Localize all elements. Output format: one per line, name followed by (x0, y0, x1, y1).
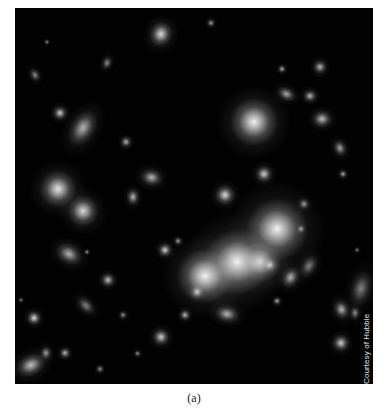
galaxy (176, 306, 194, 324)
figure-caption: (a) (0, 391, 388, 406)
galaxy (49, 102, 71, 124)
galaxy (23, 61, 48, 88)
galaxy (353, 246, 362, 255)
galaxy (123, 184, 143, 210)
galaxy (328, 330, 354, 356)
galaxy (275, 62, 288, 75)
galaxy (97, 269, 119, 291)
galaxy (270, 294, 283, 307)
galaxy (132, 348, 143, 359)
galaxy (116, 308, 129, 321)
galaxy (83, 248, 92, 257)
galaxy (59, 187, 107, 235)
galaxy (210, 180, 241, 211)
galaxy (17, 296, 26, 305)
photo-credit: Courtesy of Hubble (362, 314, 371, 384)
galaxy (204, 16, 217, 29)
galaxy (66, 286, 107, 327)
galaxy (93, 362, 106, 375)
galaxy (309, 56, 331, 78)
galaxy (117, 133, 135, 151)
galaxy (299, 86, 321, 106)
galaxy (326, 132, 354, 164)
galaxy (43, 38, 52, 47)
galaxy (148, 324, 174, 350)
galaxy (56, 344, 74, 362)
galaxy (23, 307, 45, 329)
galaxy (37, 342, 55, 364)
galaxy (186, 281, 208, 303)
galaxy-cluster-photo (15, 8, 373, 384)
galaxy (137, 9, 184, 58)
galaxy (96, 50, 119, 76)
galaxy (295, 195, 313, 213)
galaxy (307, 106, 338, 133)
galaxy (336, 167, 349, 180)
